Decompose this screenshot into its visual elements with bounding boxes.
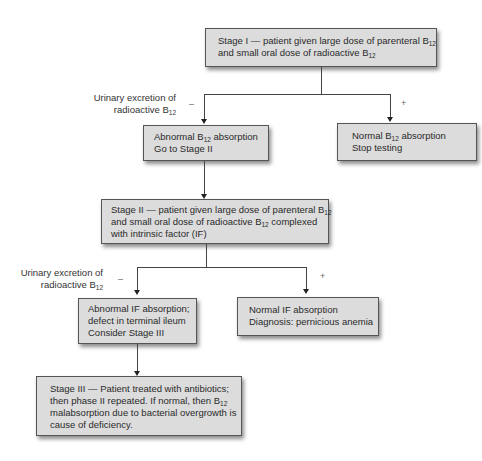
stage-1-line-2: and small oral dose of radioactive B12 — [218, 47, 424, 59]
abnormal-if-line-1: Abnormal IF absorption; — [88, 303, 187, 315]
stage-3-line-4: cause of deficiency. — [50, 419, 228, 431]
branch-label-2-line-1: Urinary excretion of — [14, 267, 103, 279]
abnormal-b12-line-2: Go to Stage II — [154, 143, 258, 155]
stage-2-line-3: with intrinsic factor (IF) — [111, 228, 319, 240]
positive-sign: + — [401, 98, 406, 108]
normal-if-line-1: Normal IF absorption — [249, 304, 367, 316]
connector-to-stage-3 — [137, 344, 138, 373]
connector-branch-1-right — [390, 94, 391, 118]
negative-sign: – — [118, 274, 123, 284]
abnormal-b12-box: Abnormal B12 absorption Go to Stage II — [143, 125, 269, 161]
stage-2-line-2: and small oral dose of radioactive B12 c… — [111, 216, 319, 228]
normal-b12-line-1: Normal B12 absorption — [352, 130, 462, 142]
stage-2-line-1: Stage II — patient given large dose of p… — [111, 204, 319, 216]
connector-branch-2 — [137, 267, 307, 268]
negative-sign: – — [189, 99, 194, 109]
connector-branch-2-left — [137, 267, 138, 291]
normal-b12-box: Normal B12 absorption Stop testing — [337, 123, 477, 161]
arrow-down-icon — [201, 119, 207, 124]
abnormal-if-line-2: defect in terminal ileum — [88, 315, 187, 327]
connector-branch-1 — [204, 94, 391, 95]
connector-stage1-down — [321, 67, 322, 94]
normal-if-line-2: Diagnosis: pernicious anemia — [249, 316, 367, 328]
stage-3-line-2: then phase II repeated. If normal, then … — [50, 395, 228, 407]
abnormal-b12-line-1: Abnormal B12 absorption — [154, 131, 258, 143]
connector-to-stage-2 — [204, 161, 205, 195]
abnormal-if-box: Abnormal IF absorption; defect in termin… — [78, 298, 197, 344]
normal-b12-line-2: Stop testing — [352, 142, 462, 154]
arrow-down-icon — [303, 289, 309, 294]
stage-1-box: Stage I — patient given large dose of pa… — [205, 28, 437, 67]
positive-sign: + — [320, 271, 325, 281]
arrow-down-icon — [134, 290, 140, 295]
connector-branch-2-right — [306, 267, 307, 290]
branch-label-1: Urinary excretion of radioactive B12 — [86, 92, 176, 116]
stage-3-line-3: malabsorption due to bacterial overgrowt… — [50, 407, 228, 419]
stage-3-line-1: Stage III — Patient treated with antibio… — [50, 383, 228, 395]
branch-label-2-line-2: radioactive B12 — [14, 279, 103, 291]
stage-3-box: Stage III — Patient treated with antibio… — [36, 376, 242, 436]
normal-if-box: Normal IF absorption Diagnosis: pernicio… — [237, 297, 379, 336]
stage-2-box: Stage II — patient given large dose of p… — [101, 199, 329, 244]
connector-stage2-down — [206, 244, 207, 268]
branch-label-2: Urinary excretion of radioactive B12 — [14, 267, 103, 291]
arrow-down-icon — [387, 117, 393, 122]
stage-1-line-1: Stage I — patient given large dose of pa… — [218, 35, 424, 47]
connector-branch-1-left — [204, 94, 205, 120]
branch-label-1-line-1: Urinary excretion of — [86, 92, 176, 104]
abnormal-if-line-3: Consider Stage III — [88, 327, 187, 339]
branch-label-1-line-2: radioactive B12 — [86, 104, 176, 116]
